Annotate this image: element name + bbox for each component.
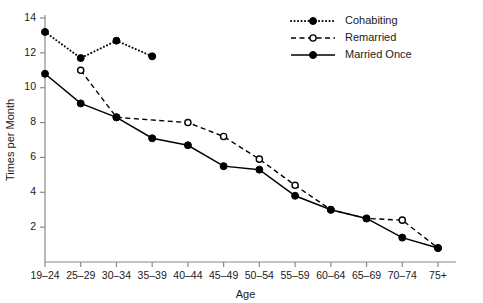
legend-item-remarried: Remarried: [291, 31, 396, 43]
line-chart: 2468101214 19–2425–2930–3435–3940–4445–4…: [0, 0, 483, 303]
data-point: [185, 119, 191, 125]
data-point: [399, 217, 405, 223]
x-tick-label: 70–74: [388, 269, 417, 281]
legend-marker: [310, 52, 317, 59]
y-axis-title: Times per Month: [4, 99, 16, 181]
y-tick-label: 10: [24, 80, 36, 92]
x-tick-label: 19–24: [30, 269, 59, 281]
legend-item-label: Remarried: [345, 31, 396, 43]
legend-item-label: Married Once: [345, 48, 412, 60]
chart-container: 2468101214 19–2425–2930–3435–3940–4445–4…: [0, 0, 483, 303]
y-tick-label: 2: [30, 220, 36, 232]
x-tick-label: 75+: [429, 269, 447, 281]
data-point: [220, 163, 227, 170]
data-point: [42, 70, 49, 77]
data-point: [292, 192, 299, 199]
data-point: [42, 28, 49, 35]
chart-legend: CohabitingRemarriedMarried Once: [291, 14, 412, 60]
x-tick-label: 60–64: [316, 269, 345, 281]
series-remarried: [78, 67, 441, 251]
x-axis: 19–2425–2930–3435–3940–4445–4950–5455–59…: [30, 262, 456, 281]
x-tick-label: 25–29: [66, 269, 95, 281]
data-point: [435, 245, 442, 252]
legend-item-married-once: Married Once: [291, 48, 412, 60]
legend-item-cohabiting: Cohabiting: [291, 14, 398, 26]
y-axis: 2468101214: [24, 11, 45, 262]
series-line: [45, 32, 152, 58]
y-tick-label: 6: [30, 150, 36, 162]
data-point: [149, 135, 156, 142]
data-point: [256, 156, 262, 162]
data-point: [113, 37, 120, 44]
data-point: [113, 114, 120, 121]
x-tick-label: 50–54: [245, 269, 274, 281]
legend-item-label: Cohabiting: [345, 14, 398, 26]
x-axis-title: Age: [236, 288, 256, 300]
data-point: [327, 206, 334, 213]
x-axis-ticks: 19–2425–2930–3435–3940–4445–4950–5455–59…: [30, 262, 447, 281]
data-point: [256, 166, 263, 173]
series-layer: [42, 28, 442, 251]
data-point: [77, 100, 84, 107]
series-cohabiting: [42, 28, 156, 61]
x-tick-label: 40–44: [173, 269, 202, 281]
legend-marker: [310, 18, 317, 25]
data-point: [292, 182, 298, 188]
data-point: [363, 215, 370, 222]
y-tick-label: 8: [30, 115, 36, 127]
legend-marker: [310, 35, 316, 41]
y-tick-label: 14: [24, 11, 36, 23]
x-tick-label: 30–34: [102, 269, 131, 281]
data-point: [78, 67, 84, 73]
data-point: [221, 133, 227, 139]
y-tick-label: 4: [30, 185, 36, 197]
y-axis-ticks: 2468101214: [24, 11, 45, 232]
data-point: [77, 55, 84, 62]
x-tick-label: 35–39: [138, 269, 167, 281]
x-tick-label: 65–69: [352, 269, 381, 281]
data-point: [184, 142, 191, 149]
data-point: [149, 53, 156, 60]
data-point: [399, 234, 406, 241]
x-tick-label: 55–59: [280, 269, 309, 281]
x-tick-label: 45–49: [209, 269, 238, 281]
y-tick-label: 12: [24, 46, 36, 58]
